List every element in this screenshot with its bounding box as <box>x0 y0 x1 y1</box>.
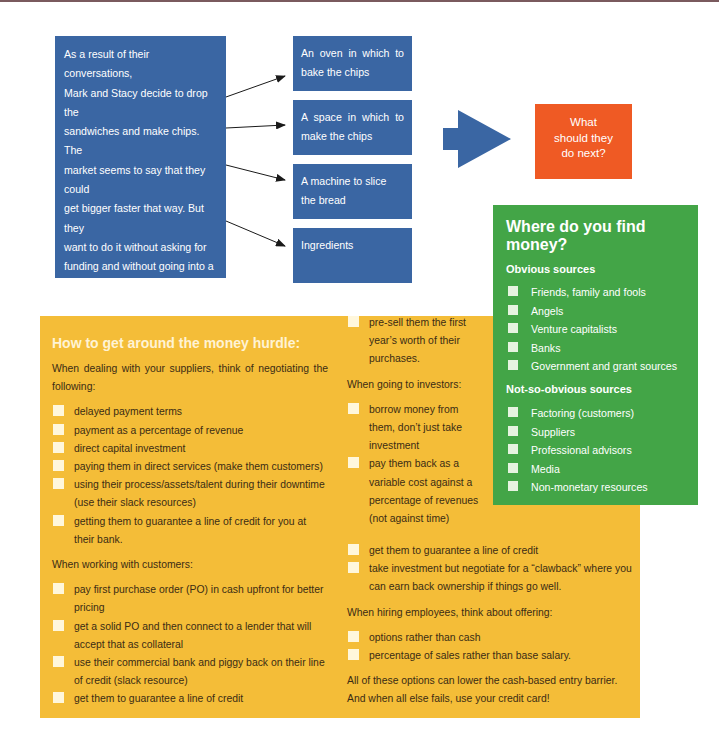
checkbox-icon <box>508 407 518 417</box>
panel-title: Where do you find money? <box>506 218 686 253</box>
panel-title: How to get around the money hurdle: <box>52 335 300 351</box>
checkbox-icon <box>53 515 64 526</box>
question-line: What <box>535 115 632 131</box>
employees-intro: When hiring employees, think about offer… <box>347 604 632 622</box>
list-item: Government and grant sources <box>508 357 677 376</box>
question-line: do next? <box>535 146 632 162</box>
checkbox-icon <box>53 478 64 489</box>
checkbox-icon <box>348 544 359 555</box>
arrow-to-oven <box>226 76 285 97</box>
list-item: payment as a percentage of revenue <box>52 422 328 440</box>
checkbox-icon <box>508 342 518 352</box>
hurdle-right-column-top: pre-sell them the first year’s worth of … <box>347 314 487 528</box>
obvious-heading: Obvious sources <box>506 263 595 275</box>
list-item: take investment but negotiate for a “cla… <box>347 560 632 596</box>
question-line: should they <box>535 131 632 147</box>
checkbox-icon <box>53 656 64 667</box>
checkbox-icon <box>53 442 64 453</box>
checkbox-icon <box>348 562 359 573</box>
list-item: use their commercial bank and piggy back… <box>52 654 328 690</box>
list-item: pre-sell them the first year’s worth of … <box>347 314 487 369</box>
list-item: get a solid PO and then connect to a len… <box>52 618 328 654</box>
suppliers-intro: When dealing with your suppliers, think … <box>52 360 328 396</box>
nonobvious-list: Factoring (customers) Suppliers Professi… <box>508 404 648 497</box>
arrow-to-space <box>226 125 285 128</box>
list-item: Venture capitalists <box>508 320 677 339</box>
checkbox-icon <box>53 692 64 703</box>
checkbox-icon <box>348 457 359 468</box>
list-item: pay first purchase order (PO) in cash up… <box>52 581 328 617</box>
checkbox-icon <box>53 583 64 594</box>
list-item: Suppliers <box>508 423 648 442</box>
closing-note: All of these options can lower the cash-… <box>347 672 632 708</box>
checkbox-icon <box>348 649 359 660</box>
hurdle-right-column-bottom: get them to guarantee a line of credit t… <box>347 542 632 709</box>
list-item: Friends, family and fools <box>508 283 677 302</box>
list-item: get them to guarantee a line of credit <box>52 690 328 708</box>
checkbox-icon <box>508 286 518 296</box>
list-item: direct capital investment <box>52 440 328 458</box>
list-item: get them to guarantee a line of credit <box>347 542 632 560</box>
hurdle-left-column: When dealing with your suppliers, think … <box>52 360 328 709</box>
list-item: Professional advisors <box>508 441 648 460</box>
checkbox-icon <box>53 405 64 416</box>
list-item: Factoring (customers) <box>508 404 648 423</box>
arrow-to-machine <box>226 165 285 180</box>
block-arrow-icon <box>443 110 513 170</box>
list-item: paying them in direct services (make the… <box>52 458 328 476</box>
list-item: Banks <box>508 339 677 358</box>
checkbox-icon <box>348 631 359 642</box>
list-item: options rather than cash <box>347 629 632 647</box>
nonobvious-heading: Not-so-obvious sources <box>506 383 632 395</box>
checkbox-icon <box>508 323 518 333</box>
list-item: Angels <box>508 302 677 321</box>
list-item: borrow money from them, don’t just take … <box>347 401 487 456</box>
checkbox-icon <box>508 426 518 436</box>
checkbox-icon <box>508 463 518 473</box>
list-item: Non-monetary resources <box>508 478 648 497</box>
investors-intro: When going to investors: <box>347 376 487 394</box>
checkbox-icon <box>53 620 64 631</box>
money-sources-panel: Where do you find money? Obvious sources… <box>493 205 698 505</box>
list-item: getting them to guarantee a line of cred… <box>52 513 328 549</box>
customers-intro: When working with customers: <box>52 556 328 574</box>
list-item: delayed payment terms <box>52 403 328 421</box>
checkbox-icon <box>508 360 518 370</box>
list-item: percentage of sales rather than base sal… <box>347 647 632 665</box>
list-item: using their process/assets/talent during… <box>52 476 328 512</box>
arrow-to-ingredients <box>226 221 285 246</box>
list-item: pay them back as a variable cost against… <box>347 455 487 528</box>
list-item: Media <box>508 460 648 479</box>
checkbox-icon <box>53 460 64 471</box>
obvious-list: Friends, family and fools Angels Venture… <box>508 283 677 376</box>
checkbox-icon <box>348 403 359 414</box>
checkbox-icon <box>348 316 359 327</box>
checkbox-icon <box>508 481 518 491</box>
checkbox-icon <box>508 444 518 454</box>
next-step-question: What should they do next? <box>535 104 632 179</box>
checkbox-icon <box>53 424 64 435</box>
checkbox-icon <box>508 305 518 315</box>
